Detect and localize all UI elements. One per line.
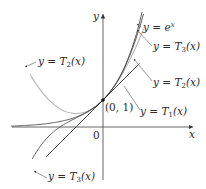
- label-t2-left: y = T2(x): [37, 55, 85, 69]
- label-t2-right: y = T2(x): [152, 76, 200, 90]
- leader-t2-right: [134, 59, 152, 81]
- y-axis-label: y: [92, 10, 100, 22]
- label-t3-right: y = T3(x): [152, 40, 200, 54]
- leader-t2-left: [25, 62, 36, 67]
- curve-T3: [32, 14, 143, 159]
- taylor-polynomials-figure: y x 0 (0, 1) y = T2(x) y = ex y = T3(x) …: [0, 0, 206, 189]
- label-exp: y = ex: [142, 21, 175, 33]
- point-label: (0, 1): [105, 101, 133, 113]
- leader-t3-bottom: [34, 171, 47, 178]
- label-t1: y = T1(x): [139, 105, 187, 119]
- x-axis-label: x: [189, 128, 195, 140]
- label-t3-bottom: y = T3(x): [47, 170, 95, 184]
- origin-label: 0: [93, 129, 100, 141]
